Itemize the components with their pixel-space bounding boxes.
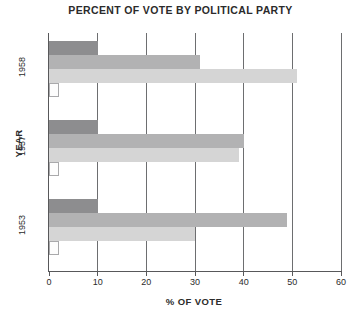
bar-1953-series-1 [49, 199, 98, 213]
bar-group-1958 [49, 41, 341, 97]
x-axis-title: % OF VOTE [48, 296, 340, 307]
bar-1953-series-2 [49, 213, 287, 227]
bar-1958-series-4 [49, 83, 59, 97]
x-tick-label-50: 50 [277, 277, 307, 287]
bar-chart: PERCENT OF VOTE BY POLITICAL PARTY YEAR … [0, 0, 361, 319]
bar-group-1957 [49, 120, 341, 176]
tick-mark-20 [146, 271, 147, 276]
bar-1957-series-1 [49, 120, 98, 134]
y-tick-label-1953: 1953 [17, 202, 27, 248]
tick-mark-10 [97, 271, 98, 276]
chart-title: PERCENT OF VOTE BY POLITICAL PARTY [0, 4, 361, 16]
bar-1958-series-3 [49, 69, 297, 83]
plot-area: 0102030405060 [48, 33, 341, 272]
tick-mark-40 [243, 271, 244, 276]
bar-1953-series-4 [49, 241, 59, 255]
x-tick-label-0: 0 [34, 277, 64, 287]
bar-group-1953 [49, 199, 341, 255]
tick-mark-60 [341, 271, 342, 276]
bar-1957-series-4 [49, 162, 59, 176]
tick-mark-30 [195, 271, 196, 276]
bar-1953-series-3 [49, 227, 195, 241]
x-tick-label-30: 30 [180, 277, 210, 287]
y-tick-label-1957: 1957 [17, 123, 27, 169]
x-tick-label-20: 20 [131, 277, 161, 287]
tick-mark-50 [292, 271, 293, 276]
x-tick-label-10: 10 [83, 277, 113, 287]
y-tick-label-1958: 1958 [17, 44, 27, 90]
bar-1958-series-2 [49, 55, 200, 69]
x-tick-label-60: 60 [326, 277, 356, 287]
bar-1957-series-3 [49, 148, 239, 162]
x-tick-label-40: 40 [229, 277, 259, 287]
tick-mark-0 [49, 271, 50, 276]
bar-1958-series-1 [49, 41, 98, 55]
bar-1957-series-2 [49, 134, 244, 148]
